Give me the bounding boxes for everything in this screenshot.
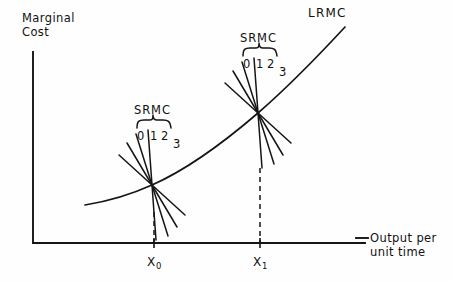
diagram-canvas: Marginal Cost Output per unit time LRMC … <box>0 0 453 281</box>
tick-label-x0-sub: 0 <box>156 261 162 271</box>
tick-label-x0-base: X <box>147 255 156 269</box>
marginal-cost-diagram: Marginal Cost Output per unit time LRMC … <box>0 0 453 281</box>
y-axis-title-line1: Marginal <box>22 11 75 25</box>
srmc-digit-left-3: 3 <box>173 137 181 151</box>
srmc-digit-left-1: 1 <box>150 129 158 143</box>
srmc-digit-right-0: 0 <box>243 57 251 71</box>
tick-label-x1-base: X <box>253 255 262 269</box>
x-axis-title-line2: unit time <box>370 245 426 259</box>
srmc-digit-right-1: 1 <box>256 57 264 71</box>
tick-label-x1-sub: 1 <box>262 261 268 271</box>
srmc-line-left-3 <box>119 155 185 215</box>
y-axis-title-line2: Cost <box>22 25 49 39</box>
srmc-digit-left-0: 0 <box>137 129 145 143</box>
srmc-digit-right-2: 2 <box>267 57 275 71</box>
lrmc-curve <box>85 27 345 205</box>
srmc-group-label-left: SRMC <box>134 103 171 117</box>
lrmc-label: LRMC <box>308 6 347 20</box>
srmc-digit-left-2: 2 <box>161 129 169 143</box>
srmc-group-label-right: SRMC <box>240 31 277 45</box>
x-axis-title-line1: Output per <box>370 231 437 245</box>
srmc-digit-right-3: 3 <box>279 65 287 79</box>
